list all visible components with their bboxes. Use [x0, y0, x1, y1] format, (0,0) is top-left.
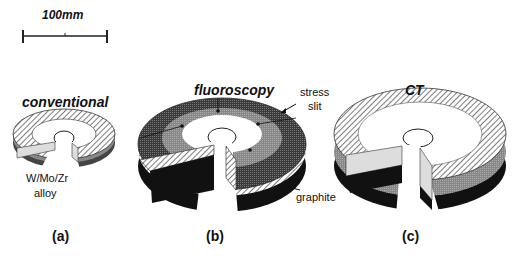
panel-c-title: CT — [405, 82, 424, 98]
caption-b: (b) — [206, 228, 224, 244]
alloy-label-line2: alloy — [34, 187, 57, 200]
diagram-canvas — [0, 0, 512, 259]
disc-conventional — [13, 109, 115, 170]
graphite-label: graphite — [296, 191, 336, 204]
scale-bar-label: 100mm — [42, 8, 83, 22]
panel-a-title: conventional — [22, 94, 108, 110]
stress-slit-label-line1: stress — [300, 86, 329, 99]
disc-fluoroscopy — [138, 98, 306, 215]
disc-ct — [334, 88, 506, 215]
caption-a: (a) — [52, 228, 69, 244]
stress-slit-label-line2: slit — [308, 100, 321, 113]
alloy-label-line1: W/Mo/Zr — [26, 172, 68, 185]
panel-b-title: fluoroscopy — [194, 82, 274, 98]
scale-bar — [23, 30, 107, 43]
caption-c: (c) — [402, 228, 419, 244]
